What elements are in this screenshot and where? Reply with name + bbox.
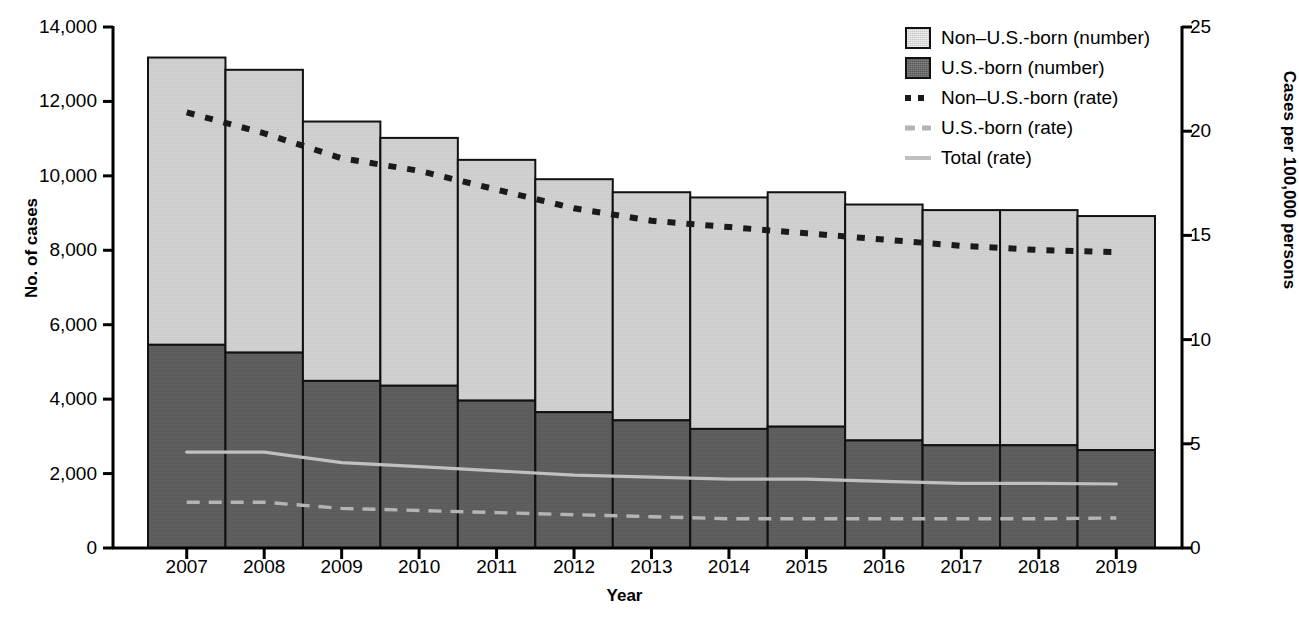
bar-segment-non-us-born [613, 192, 690, 420]
chart-legend: Non–U.S.-born (number)U.S.-born (number)… [905, 24, 1205, 174]
legend-item[interactable]: U.S.-born (number) [905, 54, 1205, 81]
legend-label: Non–U.S.-born (rate) [941, 88, 1118, 107]
bar-segment-non-us-born [535, 179, 612, 412]
bar-segment-non-us-born [225, 70, 302, 353]
bar-segment-non-us-born [303, 122, 380, 381]
bar-segment-us-born [535, 412, 612, 548]
legend-label: U.S.-born (rate) [941, 118, 1073, 137]
bar-segment-us-born [1000, 445, 1077, 548]
y-axis-right-title: Cases per 100,000 persons [1279, 15, 1299, 345]
bar-segment-us-born [845, 440, 922, 548]
bar-segment-us-born [148, 345, 225, 548]
legend-item[interactable]: Non–U.S.-born (number) [905, 24, 1205, 51]
legend-item[interactable]: Total (rate) [905, 144, 1205, 171]
bar-segment-non-us-born [690, 197, 767, 428]
legend-line-dashed-icon [905, 117, 931, 139]
legend-line-dotted-icon [905, 87, 931, 109]
legend-swatch-non-us-born-icon [905, 27, 931, 49]
bar-segment-us-born [768, 427, 845, 548]
legend-label: Total (rate) [941, 148, 1032, 167]
legend-line-solid-icon [905, 147, 931, 169]
bar-segment-us-born [923, 445, 1000, 548]
legend-item[interactable]: Non–U.S.-born (rate) [905, 84, 1205, 111]
bar-segment-us-born [225, 353, 302, 548]
bar-segment-us-born [1078, 450, 1155, 548]
legend-swatch-us-born-icon [905, 57, 931, 79]
legend-item[interactable]: U.S.-born (rate) [905, 114, 1205, 141]
bar-segment-non-us-born [1000, 210, 1077, 445]
bar-segment-non-us-born [768, 192, 845, 426]
legend-label: Non–U.S.-born (number) [941, 28, 1150, 47]
bar-segment-us-born [458, 401, 535, 548]
bar-segment-us-born [613, 420, 690, 548]
bar-segment-us-born [690, 429, 767, 548]
bar-segment-non-us-born [148, 58, 225, 345]
legend-label: U.S.-born (number) [941, 58, 1105, 77]
